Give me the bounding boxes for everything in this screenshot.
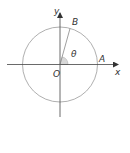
point-b-label: B xyxy=(72,17,78,27)
unit-circle-diagram: y x O A B θ xyxy=(0,0,130,153)
origin-label: O xyxy=(53,69,60,79)
angle-theta-label: θ xyxy=(71,49,77,59)
y-axis-label: y xyxy=(53,6,60,16)
point-a-label: A xyxy=(98,54,105,64)
x-axis-label: x xyxy=(114,67,121,77)
